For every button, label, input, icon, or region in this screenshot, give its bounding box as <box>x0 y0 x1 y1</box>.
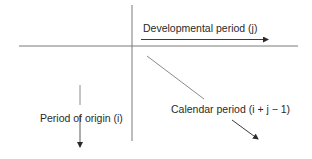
calendar-period-label: Calendar period (i + j − 1) <box>171 104 290 115</box>
run-off-triangle-diagram: Developmental period (j) Period of origi… <box>0 0 312 159</box>
developmental-period-label: Developmental period (j) <box>143 23 257 34</box>
period-of-origin-label: Period of origin (i) <box>40 113 123 124</box>
calendar-period-arrow <box>232 120 258 139</box>
calendar-period-arrow-upper <box>147 56 204 99</box>
